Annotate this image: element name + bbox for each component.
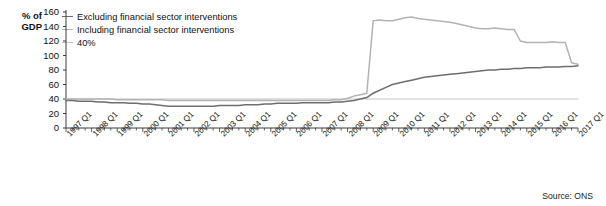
source-note: Source: ONS [542,191,593,201]
series-line-including-financial-sector-interventions [66,17,578,100]
